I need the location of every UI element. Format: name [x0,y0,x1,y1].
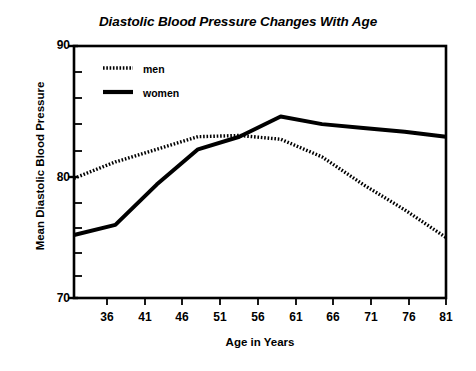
series-line-men [74,135,446,237]
plot-frame [74,46,446,298]
plot-area [0,0,476,371]
series-line-women [74,117,446,235]
chart-figure: Diastolic Blood Pressure Changes With Ag… [0,0,476,371]
